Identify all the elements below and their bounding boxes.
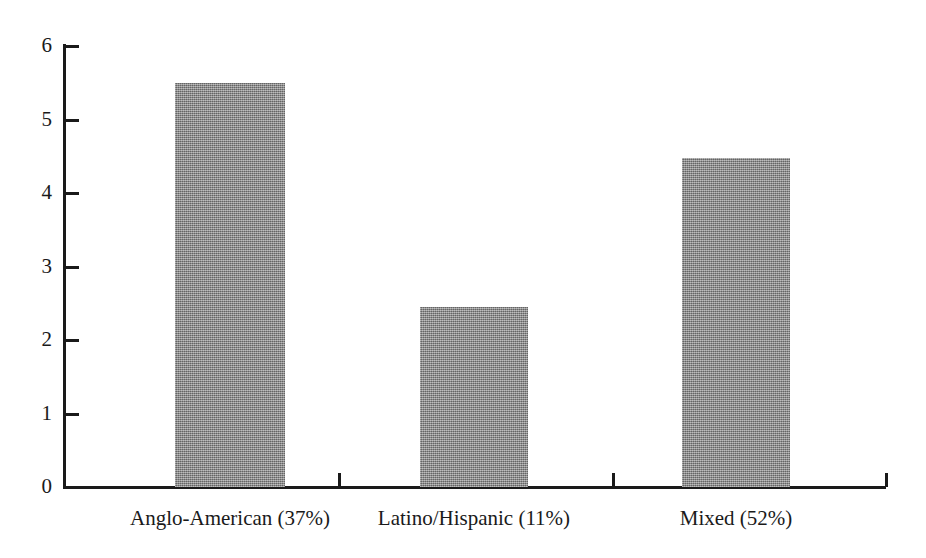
x-axis-tick-mark (885, 473, 888, 487)
y-axis-tick-label: 5 (0, 109, 52, 130)
y-axis-tick-label: 4 (0, 182, 52, 203)
y-axis-tick-label-text: 3 (10, 256, 52, 277)
bar (682, 158, 790, 487)
y-axis-tick-label: 6 (0, 35, 52, 56)
y-axis-tick-label-text: 4 (10, 182, 52, 203)
y-axis-tick-label: 2 (0, 329, 52, 350)
y-axis-tick-label-text: 5 (10, 109, 52, 130)
y-axis-tick-label-text: 2 (10, 329, 52, 350)
y-axis-tick-label-text: 6 (10, 35, 52, 56)
y-axis-tick-label-text: 1 (10, 403, 52, 424)
plot-area (65, 46, 885, 487)
y-axis-tick-label: 3 (0, 256, 52, 277)
y-axis-tick-label: 0 (0, 476, 52, 497)
category-label: Mixed (52%) (576, 505, 896, 531)
bar-chart: 6543210 Anglo-American (37%)Latino/Hispa… (0, 0, 926, 558)
y-axis-tick-label: 1 (0, 403, 52, 424)
bar (420, 307, 528, 487)
bar (175, 83, 285, 487)
y-axis-tick-label-text: 0 (10, 476, 52, 497)
